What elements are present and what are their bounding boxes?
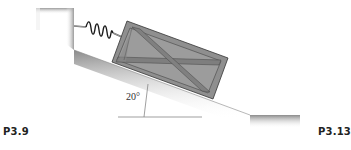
problem-label-right: P3.13 — [318, 126, 351, 137]
angle-label: 20° — [126, 91, 140, 102]
wall — [36, 8, 74, 50]
spring — [74, 22, 122, 38]
problem-label-left: P3.9 — [3, 126, 29, 137]
